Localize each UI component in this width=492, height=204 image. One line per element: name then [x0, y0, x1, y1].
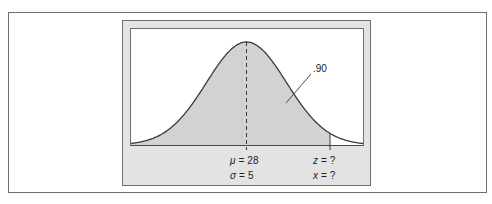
sd-label: σ=5	[230, 170, 254, 181]
z-label: z=?	[312, 155, 336, 166]
mean-label: μ=28	[229, 155, 259, 166]
shaded-area-label: .90	[313, 63, 327, 74]
normal-curve-diagram: .90 μ=28 σ=5 z=? x=?	[0, 0, 492, 204]
x-label: x=?	[312, 170, 336, 181]
